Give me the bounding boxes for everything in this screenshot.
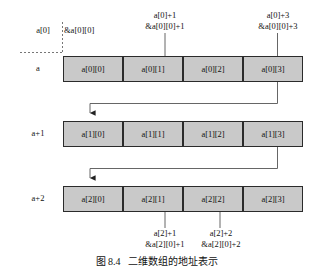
connector-row0-row1	[90, 82, 278, 113]
row-label-a-plus-1: a+1	[16, 128, 60, 138]
label-col1-pointer: a[0]+1 &a[0][0]+1	[115, 10, 215, 31]
caption-number: 图 8.4	[96, 256, 121, 267]
cell-a0-0: a[0][0]	[63, 56, 123, 82]
row-label-a: a	[16, 63, 60, 73]
label-col3-line1: a[0]+3	[228, 10, 313, 21]
cell-a1-1: a[1][1]	[123, 121, 183, 147]
caption-text: 二维数组的地址表示	[128, 256, 218, 267]
label-base-address-text: &a[0][0]	[64, 25, 120, 36]
label-a0-base: a[0]	[18, 25, 68, 36]
cell-a0-3: a[0][3]	[243, 56, 303, 82]
cell-a2-2: a[2][2]	[183, 186, 243, 212]
cell-a0-1: a[0][1]	[123, 56, 183, 82]
label-col1-line1: a[0]+1	[115, 10, 215, 21]
cell-a1-0: a[1][0]	[63, 121, 123, 147]
cell-a2-1: a[2][1]	[123, 186, 183, 212]
label-col3-line2: &a[0][0]+3	[228, 21, 313, 32]
cell-a2-3: a[2][3]	[243, 186, 303, 212]
label-base-address: &a[0][0]	[64, 25, 120, 36]
cell-a1-3: a[1][3]	[243, 121, 303, 147]
cell-a2-0: a[2][0]	[63, 186, 123, 212]
figure-caption: 图 8.4二维数组的地址表示	[0, 253, 313, 268]
label-bottom-col2-line1: a[2]+2	[178, 228, 264, 239]
cell-a0-2: a[0][2]	[183, 56, 243, 82]
label-bottom-col2-line2: &a[2][0]+2	[178, 239, 264, 250]
row-label-a-plus-2: a+2	[16, 193, 60, 203]
label-a0-base-text: a[0]	[18, 25, 68, 36]
connector-row1-row2	[90, 147, 278, 178]
label-bottom-col2: a[2]+2 &a[2][0]+2	[178, 228, 264, 249]
cell-a1-2: a[1][2]	[183, 121, 243, 147]
figure-container: a[0] &a[0][0] a[0]+1 &a[0][0]+1 a[0]+3 &…	[0, 0, 313, 274]
label-col3-pointer: a[0]+3 &a[0][0]+3	[228, 10, 313, 31]
label-col1-line2: &a[0][0]+1	[115, 21, 215, 32]
